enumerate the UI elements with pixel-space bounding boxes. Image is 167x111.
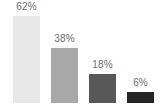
bar-group: 38%: [51, 48, 78, 103]
bar-rect[interactable]: [127, 92, 154, 103]
bar-value-label: 18%: [92, 60, 112, 70]
bar-chart: 62% 38% 18% 6%: [0, 0, 167, 111]
bar-value-label: 6%: [133, 78, 148, 88]
bar-group: 62%: [13, 16, 40, 103]
bar-value-label: 38%: [54, 34, 74, 44]
bar-rect[interactable]: [51, 48, 78, 103]
bar-value-label: 62%: [16, 2, 36, 12]
bar-rect[interactable]: [13, 16, 40, 103]
bar-group: 18%: [89, 74, 116, 103]
bar-rect[interactable]: [89, 74, 116, 103]
chart-plot-area: 62% 38% 18% 6%: [0, 0, 167, 111]
bar-group: 6%: [127, 92, 154, 103]
